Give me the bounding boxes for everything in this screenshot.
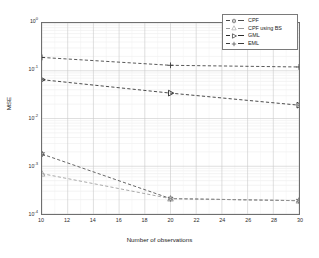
legend-label: CPF using BS bbox=[248, 25, 282, 32]
legend[interactable]: CPFCPF using BSGMLEML bbox=[222, 14, 298, 50]
x-axis-title: Number of observations bbox=[0, 236, 319, 243]
series-markers-eml bbox=[42, 55, 299, 70]
x-tick-label: 28 bbox=[271, 218, 277, 223]
x-tick-label: 22 bbox=[193, 218, 199, 223]
legend-swatch bbox=[225, 17, 247, 24]
triangle-right-marker bbox=[231, 33, 237, 39]
legend-swatch bbox=[225, 32, 247, 39]
x-tick-label: 10 bbox=[38, 218, 44, 223]
plus-marker bbox=[231, 41, 237, 47]
legend-label: EML bbox=[248, 40, 259, 47]
legend-label: CPF bbox=[248, 17, 259, 24]
y-tick-label: 10-1 bbox=[17, 67, 38, 72]
legend-swatch bbox=[225, 40, 247, 47]
plot-area bbox=[41, 22, 300, 215]
legend-item-gml[interactable]: GML bbox=[225, 32, 295, 40]
x-tick-label: 20 bbox=[168, 218, 174, 223]
legend-item-cpf[interactable]: CPF bbox=[225, 17, 295, 25]
legend-label: GML bbox=[248, 32, 260, 39]
series-line-gml bbox=[42, 80, 299, 106]
x-tick-label: 26 bbox=[245, 218, 251, 223]
x-tick-label: 18 bbox=[142, 218, 148, 223]
x-tick-label: 12 bbox=[64, 218, 70, 223]
data-series-layer bbox=[42, 23, 299, 214]
x-tick-label: 24 bbox=[219, 218, 225, 223]
y-tick-label: 100 bbox=[17, 19, 38, 24]
triangle-up-marker bbox=[231, 25, 237, 31]
x-tick-label: 30 bbox=[297, 218, 303, 223]
mse-vs-observations-figure: MSE 10010-110-210-310-4 1012141618202224… bbox=[0, 0, 319, 258]
series-line-cpf bbox=[42, 154, 299, 201]
legend-item-cpf-using-bs[interactable]: CPF using BS bbox=[225, 25, 295, 33]
y-tick-label: 10-2 bbox=[17, 116, 38, 121]
y-axis-title: MSE bbox=[5, 80, 12, 128]
hexagram-marker bbox=[231, 18, 237, 24]
x-tick-label: 14 bbox=[90, 218, 96, 223]
y-tick-label: 10-3 bbox=[17, 164, 38, 169]
x-tick-label: 16 bbox=[116, 218, 122, 223]
legend-item-eml[interactable]: EML bbox=[225, 40, 295, 48]
legend-swatch bbox=[225, 25, 247, 32]
y-tick-label: 10-4 bbox=[17, 212, 38, 217]
series-markers-gml bbox=[42, 77, 299, 108]
